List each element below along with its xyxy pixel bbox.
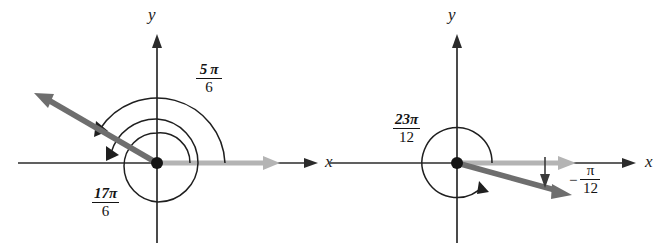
left-origin-point [151,157,163,169]
left-y-axis-arrowhead [152,34,162,48]
right-label-23pi-over-12: 23π 12 [393,112,420,145]
right-circle-arc-arrowhead [477,181,489,194]
left-initial-side-arrowhead [263,156,280,170]
coterminal-angles-figure: y x 5 π 6 17π 6 y x 23π 12 − π 12 [0,0,672,251]
right-origin-point [451,157,463,169]
right-label-23pi-over-12-denominator: 12 [397,129,416,145]
left-label-5pi-over-6-numerator: 5 π [198,62,221,78]
right-panel-graph [330,34,636,243]
left-outer-arc-5pi-over-6 [100,98,225,163]
right-y-axis-arrowhead [452,34,462,48]
right-label-negative-pi-over-12-denominator: 12 [581,180,600,196]
right-label-negative-pi-over-12: − π 12 [569,163,600,196]
right-x-axis-arrowhead [622,158,636,168]
left-y-axis-label: y [148,6,156,23]
right-terminal-side-ray [457,163,555,190]
right-x-axis-label: x [645,153,653,170]
left-panel-graph [18,34,318,243]
left-x-axis-label: x [325,153,333,170]
right-y-axis-label: y [448,6,456,23]
left-label-17pi-over-6-denominator: 6 [100,203,112,219]
left-label-5pi-over-6: 5 π 6 [196,62,222,95]
left-terminal-side-ray [50,101,157,163]
right-label-negative-pi-over-12-fraction: π 12 [580,163,600,196]
right-label-negative-pi-over-12-sign: − [569,173,577,188]
left-label-17pi-over-6-numerator: 17π [92,186,119,202]
left-label-17pi-over-6: 17π 6 [92,186,119,219]
left-x-axis-arrowhead [304,158,318,168]
left-label-5pi-over-6-denominator: 6 [203,79,215,95]
right-label-negative-pi-over-12-numerator: π [585,163,597,179]
left-terminal-side-arrowhead [34,93,54,108]
right-label-23pi-over-12-numerator: 23π [393,112,420,128]
